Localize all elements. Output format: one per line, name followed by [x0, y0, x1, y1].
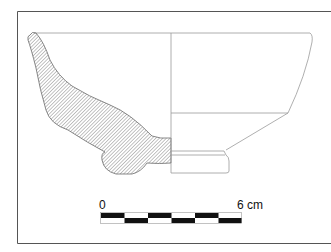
section-profile [28, 32, 171, 174]
scale-bar [101, 213, 242, 224]
ring-foot [171, 151, 229, 173]
scale-start-label: 0 [99, 199, 106, 211]
bowl-drawing [0, 0, 331, 252]
scale-end-label: 6 cm [237, 199, 263, 211]
exterior-profile [226, 33, 312, 150]
